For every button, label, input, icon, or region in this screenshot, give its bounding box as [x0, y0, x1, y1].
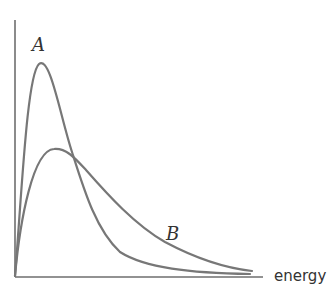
curve-a-label: A — [30, 34, 45, 55]
energy-distribution-chart: A B energy — [0, 0, 335, 303]
curve-b-label: B — [165, 223, 179, 244]
curve-b — [15, 149, 252, 276]
x-axis-label: energy — [274, 267, 326, 285]
curve-a — [15, 63, 250, 276]
